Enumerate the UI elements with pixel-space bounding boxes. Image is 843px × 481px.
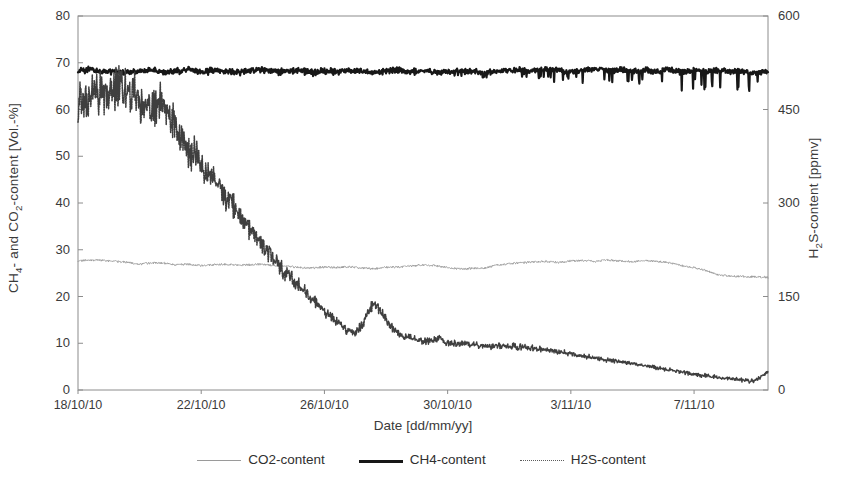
legend-label-ch4: CH4-content bbox=[410, 452, 486, 467]
y-axis-tick-label: 40 bbox=[36, 195, 70, 210]
y-axis-tick-label: 50 bbox=[36, 148, 70, 163]
y-axis-tick-label: 70 bbox=[36, 55, 70, 70]
series-line-co2 bbox=[78, 259, 768, 278]
y2-axis-tick-label: 150 bbox=[778, 289, 818, 304]
y-axis-tick-label: 30 bbox=[36, 242, 70, 257]
legend-label-co2: CO2-content bbox=[248, 452, 325, 467]
legend-item-h2s[interactable]: H2S-content bbox=[520, 452, 646, 467]
series-line-h2s bbox=[78, 66, 768, 383]
y-axis-tick-label: 20 bbox=[36, 289, 70, 304]
y-axis-tick-label: 0 bbox=[36, 382, 70, 397]
x-axis-tick-label: 3/11/10 bbox=[526, 398, 616, 412]
x-axis-tick-label: 18/10/10 bbox=[33, 398, 123, 412]
legend-line-h2s-icon bbox=[520, 455, 564, 465]
y2-axis-tick-label: 300 bbox=[778, 195, 818, 210]
legend-line-co2-icon bbox=[197, 455, 241, 465]
y2-axis-tick-label: 600 bbox=[778, 8, 818, 23]
series-line-ch4 bbox=[78, 67, 768, 91]
legend-item-ch4[interactable]: CH4-content bbox=[359, 452, 486, 467]
legend-item-co2[interactable]: CO2-content bbox=[197, 452, 325, 467]
y-axis-tick-label: 80 bbox=[36, 8, 70, 23]
x-axis-tick-label: 30/10/10 bbox=[403, 398, 493, 412]
y2-axis-tick-label: 450 bbox=[778, 102, 818, 117]
y-axis-tick-label: 60 bbox=[36, 102, 70, 117]
data-series bbox=[78, 66, 768, 383]
legend-label-h2s: H2S-content bbox=[571, 452, 646, 467]
y-axis-tick-label: 10 bbox=[36, 335, 70, 350]
y2-axis-tick-label: 0 bbox=[778, 382, 818, 397]
x-axis-tick-label: 22/10/10 bbox=[156, 398, 246, 412]
chart-figure: CH4- and CO2-content [Vol.-%] H2S-conten… bbox=[0, 0, 843, 481]
x-axis-tick-label: 7/11/10 bbox=[649, 398, 739, 412]
chart-legend: CO2-content CH4-content H2S-content bbox=[0, 452, 843, 467]
legend-line-ch4-icon bbox=[359, 455, 403, 465]
x-axis-tick-label: 26/10/10 bbox=[279, 398, 369, 412]
